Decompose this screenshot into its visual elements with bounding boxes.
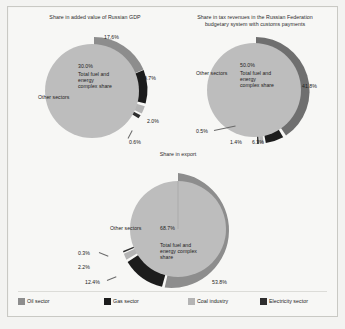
chart-panel-export: Share in export Other sectors 68.7% Tota…	[88, 147, 268, 295]
tax-pct-gas: 6.3%	[252, 139, 264, 145]
export-pct-electricity: 0.3%	[78, 250, 90, 256]
legend-item-gas[interactable]: Gas sector	[104, 298, 188, 305]
legend-label-electricity: Electricity sector	[269, 298, 308, 304]
tax-center-label: Total fuel and energy complex share	[240, 70, 296, 89]
export-pct-gas: 12.4%	[85, 279, 100, 285]
gdp-pct-coal: 2.0%	[147, 118, 159, 124]
chart-title-export: Share in export	[88, 151, 268, 158]
gdp-center-value: 30.0%	[78, 63, 93, 69]
legend-label-coal: Coal industry	[197, 298, 228, 304]
legend-swatch-gas-icon	[104, 298, 111, 305]
legend-item-oil[interactable]: Oil sector	[18, 298, 104, 305]
export-center-value: 68.7%	[160, 225, 175, 231]
tax-other-disc	[207, 43, 301, 137]
legend-item-coal[interactable]: Coal industry	[188, 298, 260, 305]
tax-center-value: 50.0%	[240, 62, 255, 68]
chart-title-tax: Share in tax revenues in the Russian Fed…	[174, 14, 336, 28]
chart-title-gdp: Share in added value of Russian GDP	[16, 14, 174, 21]
chart-panel-tax: Share in tax revenues in the Russian Fed…	[174, 11, 336, 149]
gdp-center-label: Total fuel and energy complex share	[78, 71, 134, 90]
gdp-pct-gas: 9.7%	[144, 75, 156, 81]
legend-divider	[18, 291, 327, 292]
tax-pct-oil: 41.8%	[302, 83, 317, 89]
export-pct-coal: 2.2%	[78, 264, 90, 270]
gdp-other-disc	[45, 44, 139, 138]
legend-swatch-coal-icon	[188, 298, 195, 305]
tax-pct-coal: 1.4%	[230, 139, 242, 145]
legend-swatch-oil-icon	[18, 298, 25, 305]
tax-other-label: Other sectors	[196, 70, 227, 76]
gdp-other-label: Other sectors	[38, 94, 69, 100]
export-other-label: Other sectors	[110, 225, 141, 231]
export-pct-oil: 53.8%	[212, 279, 227, 285]
figure-frame: Share in added value of Russian GDP 17.6…	[7, 6, 338, 317]
legend-label-oil: Oil sector	[27, 298, 50, 304]
chart-legend: Oil sector Gas sector Coal industry Elec…	[18, 293, 330, 309]
legend-swatch-electricity-icon	[260, 298, 267, 305]
chart-panel-gdp: Share in added value of Russian GDP 17.6…	[16, 11, 174, 149]
legend-label-gas: Gas sector	[113, 298, 139, 304]
export-center-label: Total fuel and energy complex share	[160, 242, 218, 261]
tax-pct-electricity: 0.5%	[196, 128, 208, 134]
gdp-pct-electricity: 0.6%	[129, 139, 141, 145]
legend-item-electricity[interactable]: Electricity sector	[260, 298, 308, 305]
export-leader-electricity	[99, 252, 109, 257]
gdp-pct-oil: 17.6%	[104, 34, 119, 40]
